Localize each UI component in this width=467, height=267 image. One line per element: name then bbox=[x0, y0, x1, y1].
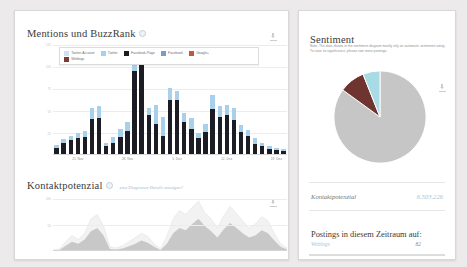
kontaktpotenzial-title: Kontaktpotenzial bbox=[27, 180, 103, 191]
bar-segment-facebook-page bbox=[90, 119, 94, 155]
bar-segment-facebook-page bbox=[246, 136, 250, 155]
bar-segment-facebook-page bbox=[196, 138, 200, 155]
chart-legend: Twitter-Account Twitter Facebook-Page Fa… bbox=[59, 47, 259, 65]
bar-segment-facebook-page bbox=[225, 115, 229, 155]
y-axis-tick-label: 50 bbox=[47, 224, 51, 228]
bar-segment-twitter bbox=[239, 125, 243, 132]
bar-segment-facebook-page bbox=[232, 120, 236, 155]
area-plot-area: 10050 bbox=[53, 199, 287, 251]
legend-label: Facebook bbox=[168, 51, 183, 56]
bar-segment-facebook-page bbox=[239, 132, 243, 155]
y-axis-tick-label: 125 bbox=[46, 43, 51, 47]
legend-item[interactable]: Weblogs bbox=[64, 57, 254, 62]
kontaktpotenzial-area-chart[interactable]: 10050 bbox=[37, 197, 289, 259]
x-axis-tick-label: 28. Nov bbox=[122, 157, 133, 161]
page-title: Mentions und BuzzRank bbox=[27, 28, 136, 39]
bar-segment-facebook-page bbox=[139, 51, 143, 155]
bar-segment-facebook-page bbox=[203, 132, 207, 155]
posting-source-name[interactable]: Weblogs bbox=[311, 241, 330, 247]
divider bbox=[309, 210, 445, 211]
bar-segment-facebook-page bbox=[97, 118, 101, 155]
legend-item[interactable]: Facebook bbox=[161, 51, 183, 56]
gridline: 50 bbox=[53, 225, 287, 226]
bar-segment-facebook-page bbox=[175, 100, 179, 155]
y-axis-tick-label: 25 bbox=[47, 132, 51, 136]
bar-segment-facebook-page bbox=[182, 122, 186, 155]
x-axis-tick-label: 12. Dez bbox=[221, 157, 232, 161]
postings-heading: Postings in diesem Zeitraum auf: bbox=[311, 223, 422, 241]
pie-svg bbox=[332, 69, 428, 165]
bar-segment-facebook-page bbox=[69, 140, 73, 155]
bar-column[interactable] bbox=[273, 45, 280, 155]
legend-swatch bbox=[101, 51, 106, 56]
legend-label: Weblogs bbox=[71, 57, 84, 62]
bar-segment-twitter bbox=[203, 124, 207, 132]
x-axis-tick-label: 5. Dez bbox=[172, 157, 182, 161]
y-axis-tick-label: 100 bbox=[46, 197, 51, 201]
bar-segment-facebook-page bbox=[210, 109, 214, 155]
kontaktpotenzial-header: Kontaktpotenzial eine Diagramm-Details a… bbox=[27, 175, 183, 193]
bar-segment-facebook-page bbox=[118, 137, 122, 155]
bar-segment-facebook-page bbox=[218, 117, 222, 155]
bar-segment-twitter bbox=[225, 105, 229, 115]
bar-segment-twitter bbox=[189, 118, 193, 129]
y-axis-tick-label: 75 bbox=[47, 87, 51, 91]
bar-segment-facebook-page bbox=[83, 137, 87, 155]
postings-title: Postings in diesem Zeitraum auf: bbox=[311, 230, 422, 239]
download-icon[interactable] bbox=[439, 84, 446, 92]
sentiment-pie-chart[interactable] bbox=[332, 69, 428, 165]
bar-segment-facebook-page bbox=[76, 138, 80, 155]
postings-row[interactable]: Weblogs 82 bbox=[311, 241, 421, 247]
bar-segment-twitter bbox=[210, 95, 214, 109]
x-axis-line bbox=[53, 154, 287, 155]
gridline: 100 bbox=[53, 199, 287, 200]
sentiment-panel: Sentiment Note: The data shown in the se… bbox=[298, 10, 456, 260]
bar-segment-facebook-page bbox=[154, 124, 158, 155]
legend-item[interactable]: Twitter bbox=[101, 51, 118, 56]
left-panel-header: Mentions und BuzzRank bbox=[27, 23, 146, 41]
x-axis-tick-label: 21. Nov bbox=[72, 157, 83, 161]
legend-item[interactable]: Twitter-Account bbox=[64, 51, 95, 56]
dashboard-page: Mentions und BuzzRank Twitter-Account Tw… bbox=[0, 0, 467, 267]
bar-segment-facebook-page bbox=[125, 131, 129, 155]
legend-swatch bbox=[161, 51, 166, 56]
info-circle-icon[interactable] bbox=[139, 30, 146, 37]
bar-segment-facebook-page bbox=[161, 136, 165, 155]
posting-count: 82 bbox=[415, 241, 421, 247]
legend-swatch bbox=[64, 57, 69, 62]
info-circle-icon[interactable] bbox=[106, 182, 113, 189]
bar-segment-twitter bbox=[154, 105, 158, 124]
bar-segment-twitter bbox=[118, 129, 122, 138]
bar-column[interactable] bbox=[259, 45, 266, 155]
legend-label: Facebook-Page bbox=[131, 51, 155, 56]
y-axis-tick-label: 50 bbox=[47, 110, 51, 114]
bar-segment-twitter bbox=[218, 106, 222, 117]
bar-segment-twitter bbox=[175, 91, 179, 101]
download-icon[interactable] bbox=[270, 33, 277, 41]
kontaktpotenzial-link[interactable]: eine Diagramm-Details anzeigen? bbox=[120, 185, 183, 190]
bar-segment-twitter bbox=[168, 88, 172, 100]
legend-label: Twitter-Account bbox=[71, 51, 94, 56]
kontaktpotenzial-summary-row: Kontaktpotenzial 6.503.226 bbox=[311, 193, 443, 200]
bar-segment-twitter bbox=[90, 108, 94, 119]
legend-swatch bbox=[189, 51, 194, 56]
sentiment-note: Note: The data shown in the sentiment di… bbox=[310, 44, 448, 53]
mentions-buzzrank-panel: Mentions und BuzzRank Twitter-Account Tw… bbox=[14, 10, 289, 260]
legend-item[interactable]: Facebook-Page bbox=[124, 51, 155, 56]
kontaktpotenzial-value: 6.503.226 bbox=[417, 193, 443, 200]
bar-segment-twitter bbox=[161, 117, 165, 135]
bar-segment-facebook-page bbox=[147, 115, 151, 155]
legend-item[interactable]: Google+ bbox=[189, 51, 209, 56]
kontaktpotenzial-label: Kontaktpotenzial bbox=[311, 193, 356, 200]
bar-segment-twitter bbox=[147, 108, 151, 116]
bar-segment-facebook-page bbox=[189, 129, 193, 155]
area-x-axis-line bbox=[53, 250, 287, 251]
bar-column[interactable] bbox=[280, 45, 287, 155]
bar-segment-twitter bbox=[97, 106, 101, 118]
x-axis-tick-label: 19. Dez bbox=[271, 157, 282, 161]
bar-segment-twitter bbox=[232, 108, 236, 120]
legend-swatch bbox=[124, 51, 129, 56]
divider bbox=[309, 182, 445, 183]
bar-segment-facebook-page bbox=[168, 100, 172, 155]
bar-column[interactable] bbox=[266, 45, 273, 155]
